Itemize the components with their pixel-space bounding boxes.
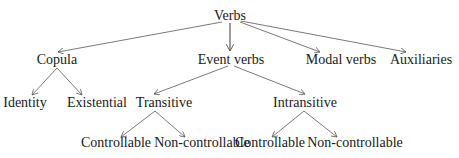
node-intransitive-controllable: Controllable <box>235 135 305 150</box>
edge-event-verbs-transitive <box>154 66 228 94</box>
edge-verbs-copula <box>58 22 222 52</box>
node-identity: Identity <box>3 95 47 110</box>
edge-event-verbs-intransitive <box>234 66 305 94</box>
node-copula: Copula <box>37 52 78 67</box>
node-transitive-controllable: Controllable <box>81 135 151 150</box>
node-intransitive: Intransitive <box>273 95 337 110</box>
edge-copula-identity <box>32 68 57 95</box>
node-event-verbs: Event verbs <box>198 52 264 67</box>
node-existential: Existential <box>67 95 127 110</box>
edge-intransitive-noncontrollable <box>304 111 337 137</box>
node-modal-verbs: Modal verbs <box>306 52 376 67</box>
node-auxiliaries: Auxiliaries <box>390 52 452 67</box>
verb-taxonomy-tree: Verbs Copula Event verbs Modal verbs Aux… <box>0 0 459 158</box>
node-intransitive-noncontrollable: Non-controllable <box>307 135 403 150</box>
edge-intransitive-controllable <box>272 111 304 137</box>
edge-verbs-modal-verbs <box>240 22 320 52</box>
edge-transitive-noncontrollable <box>155 111 185 137</box>
node-verbs: Verbs <box>214 8 246 23</box>
edge-transitive-controllable <box>121 111 155 137</box>
edge-copula-existential <box>57 68 82 95</box>
node-transitive: Transitive <box>136 95 192 110</box>
edge-verbs-auxiliaries <box>241 21 406 52</box>
